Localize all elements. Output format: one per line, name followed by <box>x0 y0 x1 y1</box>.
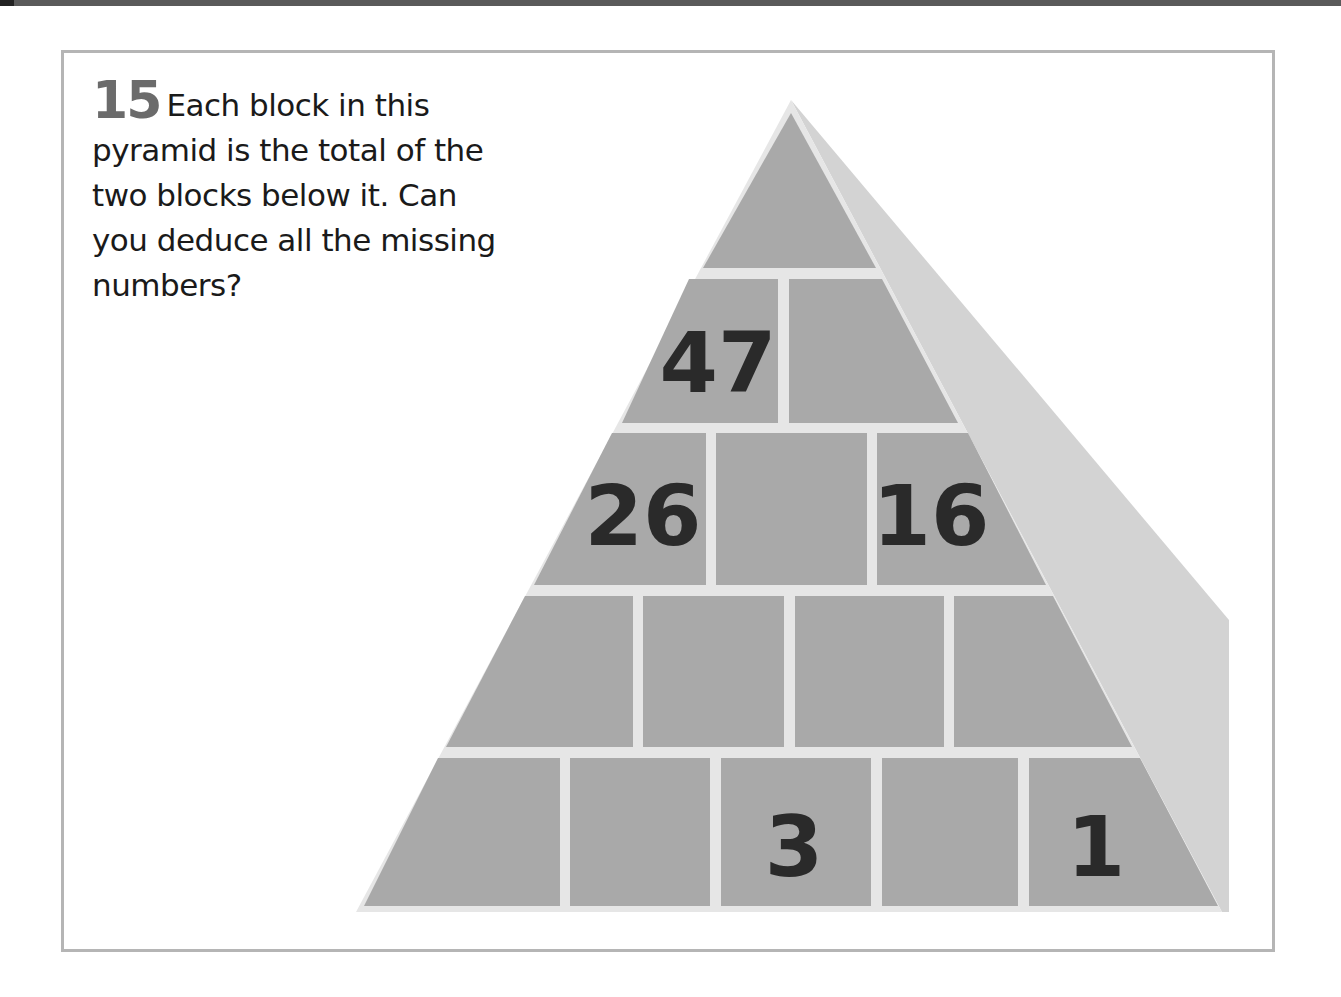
cell-value-r3-c3: 16 <box>873 467 990 565</box>
cell-value-r5-c5: 1 <box>1067 798 1125 896</box>
cell-value-r3-c1: 26 <box>585 467 702 565</box>
pyramid-block-r4-c3[interactable] <box>795 596 944 747</box>
cell-value-r2-c1: 47 <box>660 314 777 412</box>
pyramid-block-r3-c2[interactable] <box>716 433 867 585</box>
pyramid-block-r5-c1[interactable] <box>364 758 560 906</box>
pyramid-block-r5-c4[interactable] <box>882 758 1018 906</box>
cell-value-r5-c3: 3 <box>765 798 823 896</box>
pyramid-block-r4-c1[interactable] <box>446 596 633 747</box>
number-pyramid: 47 26 16 3 1 <box>0 0 1341 997</box>
pyramid-block-r5-c2[interactable] <box>570 758 710 906</box>
pyramid-block-r4-c2[interactable] <box>643 596 784 747</box>
